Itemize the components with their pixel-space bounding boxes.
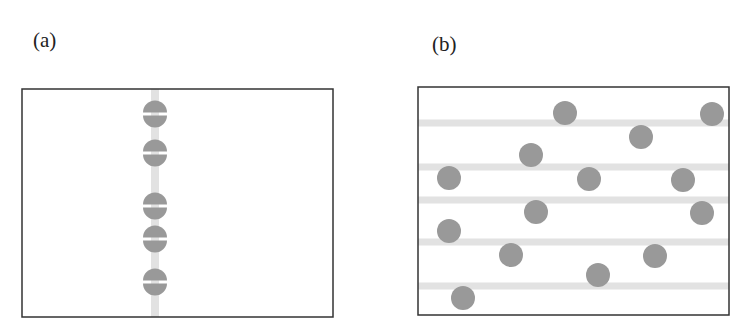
particle-top-half [143,101,167,113]
particle [690,201,714,225]
particle-bottom-half [143,116,167,128]
particle [437,166,461,190]
particle [451,286,475,310]
particle-bottom-half [143,284,167,296]
particle [524,200,548,224]
particle [577,167,601,191]
particle-bottom-half [143,155,167,167]
particle [700,102,724,126]
particle-top-half [143,193,167,205]
particle-top-half [143,269,167,281]
particle [629,125,653,149]
particle [499,243,523,267]
particle [671,168,695,192]
particle-bottom-half [143,208,167,220]
particle-top-half [143,140,167,152]
particle [586,263,610,287]
particle [643,244,667,268]
particle-bottom-half [143,241,167,253]
particle-top-half [143,226,167,238]
horizontal-band [418,197,729,204]
particle [519,143,543,167]
horizontal-band [418,239,729,246]
diagram-canvas [0,0,734,334]
particle [553,101,577,125]
particle [437,219,461,243]
panel-frame [22,89,333,317]
